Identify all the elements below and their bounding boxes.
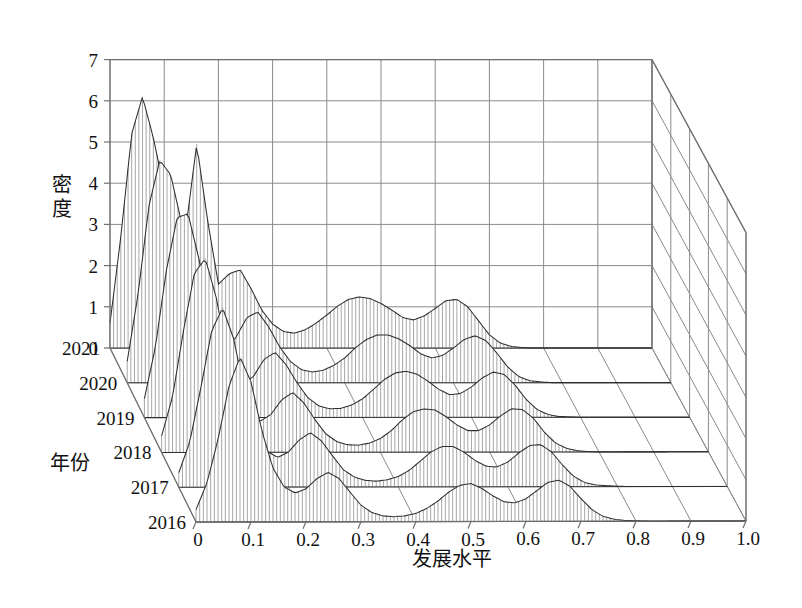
right-wall-horizontal-1 — [652, 307, 746, 480]
z-tick-2: 2 — [89, 256, 99, 277]
right-wall-horizontal-4 — [652, 183, 746, 356]
y-tick-2021: 2021 — [62, 338, 100, 359]
density-surface-plot: 0123456700.10.20.30.40.50.60.70.80.91.02… — [0, 0, 802, 608]
floor-line-x-10 — [652, 348, 746, 521]
y-axis-title: 年份 — [50, 452, 90, 474]
y-tick-2016: 2016 — [148, 512, 186, 533]
x-tick-0.5: 0.5 — [461, 529, 485, 550]
x-tick-0.3: 0.3 — [351, 529, 375, 550]
floor-line-x-9 — [598, 348, 691, 521]
x-tick-0.7: 0.7 — [571, 528, 595, 549]
z-tick-5: 5 — [89, 132, 99, 153]
figure-canvas: 0123456700.10.20.30.40.50.60.70.80.91.02… — [0, 0, 802, 608]
x-tick-0: 0 — [193, 529, 203, 550]
z-tick-4: 4 — [89, 173, 99, 194]
z-axis-title-char1: 密 — [52, 174, 72, 196]
right-wall-horizontal-5 — [652, 142, 746, 315]
x-tick-0.6: 0.6 — [516, 528, 540, 549]
waterfall-surface — [110, 97, 746, 522]
z-tick-1: 1 — [89, 297, 99, 318]
y-tick-2017: 2017 — [131, 477, 169, 498]
right-wall-horizontal-3 — [652, 224, 746, 397]
z-tick-7: 7 — [89, 50, 99, 71]
x-axis-title: 发展水平 — [412, 548, 492, 570]
x-tick-0.2: 0.2 — [296, 529, 320, 550]
right-top-edge — [652, 60, 746, 233]
x-tick-0.8: 0.8 — [626, 528, 650, 549]
x-tick-1.0: 1.0 — [736, 528, 760, 549]
x-tick-0.1: 0.1 — [241, 529, 265, 550]
y-tick-2020: 2020 — [79, 373, 117, 394]
y-tick-2019: 2019 — [96, 408, 134, 429]
z-tick-3: 3 — [89, 214, 99, 235]
y-tick-2018: 2018 — [114, 442, 152, 463]
x-tick-0.9: 0.9 — [681, 528, 705, 549]
x-tick-0.4: 0.4 — [406, 529, 430, 550]
right-wall-horizontal-2 — [652, 266, 746, 439]
right-wall-horizontal-6 — [652, 101, 746, 274]
z-tick-6: 6 — [89, 91, 99, 112]
z-axis-title-char2: 度 — [52, 198, 72, 220]
